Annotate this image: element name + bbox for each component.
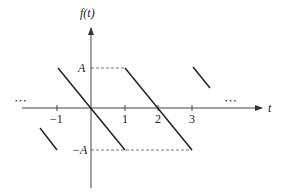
segment-2 [125,68,192,150]
label-A: A [77,61,86,75]
tick-label-3: 3 [189,112,195,126]
tick-label-neg1: −1 [50,112,63,126]
x-axis-label: t [268,101,272,115]
ellipsis-right: • • • [225,97,236,105]
sawtooth-diagram: f(t) t A −A −1 1 2 3 • • • • • • [0,0,288,195]
y-axis-label: f(t) [80,6,95,20]
label-negA: −A [72,143,88,157]
segment-right-partial [193,67,210,88]
tick-label-2: 2 [155,112,161,126]
tick-label-1: 1 [122,112,128,126]
ellipsis-left: • • • [15,97,26,105]
segment-left-partial [40,128,57,150]
